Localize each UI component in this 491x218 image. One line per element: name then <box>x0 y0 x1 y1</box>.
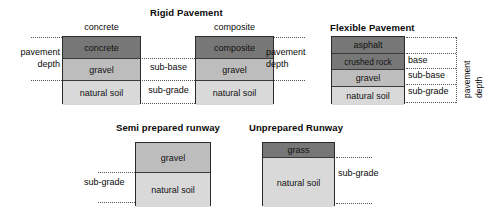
label-pavement-depth-right-line1: pavement <box>266 47 328 58</box>
section-title-flexible-pavement: Flexible Pavement <box>330 22 415 33</box>
layer-crushed-rock: crushed rock <box>332 54 404 70</box>
guide-line-sub-grade-bottom <box>142 103 195 104</box>
label-sub-grade-flexible: sub-grade <box>408 86 458 97</box>
label-pavement-depth-left-line1: pavement <box>4 47 60 58</box>
guide-line-pavement-depth-top-left <box>31 37 62 38</box>
layer-gravel: gravel <box>196 59 273 81</box>
guide-line-flex-sub-grade-top <box>406 84 456 85</box>
guide-line-semi-sub-grade-top <box>98 172 135 173</box>
stack-asphalt: asphalt crushed rock gravel natural soil <box>331 36 405 104</box>
guide-line-sub-base-bottom <box>142 80 195 81</box>
label-pavement-depth-left-line2: depth <box>4 59 60 70</box>
layer-natural-soil: natural soil <box>263 158 334 207</box>
guide-line-pavement-depth-top-right <box>274 37 305 38</box>
guide-line-unprepared-sub-grade-bottom <box>336 203 372 204</box>
layer-gravel: gravel <box>136 143 210 173</box>
layer-natural-soil: natural soil <box>136 173 210 207</box>
section-title-rigid-pavement: Rigid Pavement <box>150 7 223 18</box>
label-pavement-depth-right-line2: depth <box>266 59 328 70</box>
label-sub-base-rigid: sub-base <box>142 62 195 73</box>
stack-semi-prepared: gravel natural soil <box>135 142 211 206</box>
label-vertical-depth: depth <box>474 77 484 98</box>
label-vertical-pavement: pavement <box>462 61 472 98</box>
guide-line-unprepared-sub-grade-top <box>336 157 372 158</box>
guide-line-vertical-pavement-depth <box>456 37 457 103</box>
layer-composite: composite <box>196 37 273 59</box>
layer-gravel: gravel <box>63 59 140 81</box>
stack-unprepared: grass natural soil <box>262 142 335 206</box>
label-sub-grade-unprepared: sub-grade <box>338 168 392 179</box>
layer-natural-soil: natural soil <box>196 81 273 105</box>
section-title-unprepared-runway: Unprepared Runway <box>249 122 343 133</box>
guide-line-flex-top <box>406 37 456 38</box>
guide-line-flex-base-top <box>406 53 456 54</box>
label-sub-grade-semi-prepared: sub-grade <box>84 177 136 188</box>
stack-composite: composite gravel natural soil <box>195 36 274 104</box>
layer-concrete: concrete <box>63 37 140 59</box>
stack-concrete: concrete gravel natural soil <box>62 36 141 104</box>
guide-line-pavement-depth-bottom-right <box>274 80 305 81</box>
layer-asphalt: asphalt <box>332 37 404 54</box>
stack-caption-concrete: concrete <box>62 22 141 32</box>
label-sub-base-flexible: sub-base <box>408 70 458 81</box>
guide-line-pavement-depth-bottom-left <box>31 80 62 81</box>
label-sub-grade-rigid: sub-grade <box>142 85 195 96</box>
section-title-semi-prepared-runway: Semi prepared runway <box>116 122 220 133</box>
layer-natural-soil: natural soil <box>63 81 140 105</box>
layer-gravel: gravel <box>332 70 404 87</box>
guide-line-flex-bottom <box>406 102 456 103</box>
layer-grass: grass <box>263 143 334 158</box>
stack-caption-composite: composite <box>195 22 274 32</box>
layer-natural-soil: natural soil <box>332 87 404 105</box>
label-base-flexible: base <box>408 55 458 66</box>
guide-line-flex-sub-base-top <box>406 68 456 69</box>
guide-line-semi-sub-grade-bottom <box>98 202 135 203</box>
guide-line-sub-base-top <box>142 58 195 59</box>
